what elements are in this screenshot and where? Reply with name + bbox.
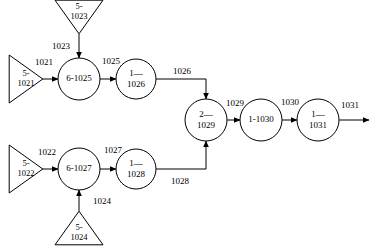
src-1023-line1: 5-: [75, 1, 82, 11]
node-1-1031-line1: 1—: [311, 109, 326, 119]
node-1-1028-line1: 1—: [129, 158, 144, 168]
edge-label-1030: 1030: [281, 97, 300, 107]
src-1023-line2: 1023: [71, 11, 88, 21]
node-2-1029-line2: 1029: [197, 120, 216, 130]
node-2-1029-line1: 2—: [199, 109, 214, 119]
src-1024-line2: 1024: [71, 232, 89, 242]
edge-label-1026: 1026: [173, 66, 192, 76]
edge-label-1022: 1022: [38, 147, 56, 157]
edge-1028: [156, 141, 206, 169]
src-1021-line2: 1021: [18, 78, 35, 88]
nodes-layer: 6-10251—10266-10271—10282—10291-10301—10…: [58, 58, 339, 190]
node-1-1030-label: 1-1030: [248, 114, 274, 124]
edge-label-1027: 1027: [104, 145, 123, 155]
edge-label-1025: 1025: [102, 56, 121, 66]
edge-1026: [156, 79, 206, 99]
edge-label-1028: 1028: [171, 176, 190, 186]
src-1021-line1: 5-: [22, 68, 29, 78]
node-1-1026-line2: 1026: [127, 79, 146, 89]
src-1022-line1: 5-: [22, 158, 29, 168]
src-1024-line1: 5-: [75, 222, 82, 232]
flow-diagram-svg: 5-10215-10235-10225-1024 6-10251—10266-1…: [0, 0, 373, 248]
edge-label-1023: 1023: [52, 41, 71, 51]
flow-diagram-canvas: 5-10215-10235-10225-1024 6-10251—10266-1…: [0, 0, 373, 248]
edge-label-1029: 1029: [226, 98, 245, 108]
node-6-1025-label: 6-1025: [66, 73, 92, 83]
node-6-1027-label: 6-1027: [66, 163, 92, 173]
node-1-1028-line2: 1028: [127, 169, 146, 179]
edge-label-1031: 1031: [341, 100, 359, 110]
node-1-1031-line2: 1031: [309, 120, 327, 130]
src-1022-line2: 1022: [18, 168, 35, 178]
edge-label-1021: 1021: [35, 57, 53, 67]
edge-label-1024: 1024: [93, 196, 112, 206]
node-1-1026-line1: 1—: [129, 68, 144, 78]
sources-layer: 5-10215-10235-10225-1024: [9, 0, 103, 245]
